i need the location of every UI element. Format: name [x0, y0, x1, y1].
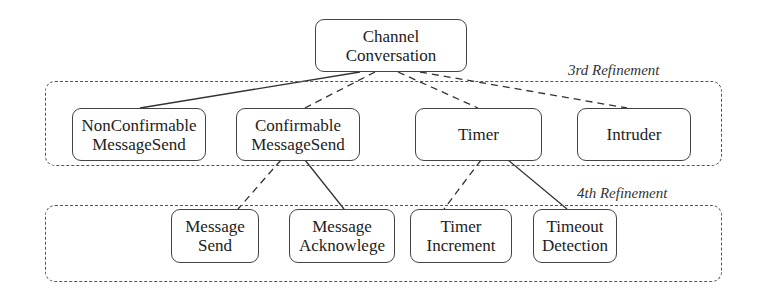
node-message-acknowlege[interactable]: Message Acknowlege [289, 209, 395, 263]
node-channel-conversation[interactable]: Channel Conversation [315, 19, 467, 72]
node-intruder[interactable]: Intruder [577, 108, 691, 161]
third-refinement-label: 3rd Refinement [568, 62, 660, 79]
edge-timer-timeout [508, 160, 567, 209]
fourth-refinement-label: 4th Refinement [577, 185, 667, 202]
node-message-send[interactable]: Message Send [171, 209, 259, 263]
node-nonconfirmable-messagesend[interactable]: NonConfirmable MessageSend [72, 108, 206, 161]
edge-confirmable-messagesend [238, 160, 281, 209]
node-confirmable-messagesend[interactable]: Confirmable MessageSend [236, 108, 360, 161]
node-timer[interactable]: Timer [415, 108, 542, 161]
edge-confirmable-acknowlege [305, 160, 344, 209]
edge-timer-increment [444, 160, 481, 209]
node-timer-increment[interactable]: Timer Increment [410, 209, 512, 263]
node-timeout-detection[interactable]: Timeout Detection [533, 209, 617, 263]
